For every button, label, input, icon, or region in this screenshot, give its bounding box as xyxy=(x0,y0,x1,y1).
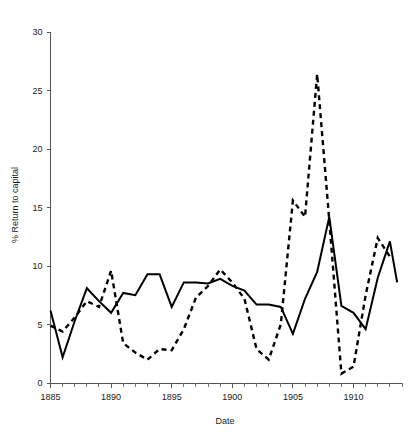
y-tick-label: 10 xyxy=(32,261,42,271)
y-tick-label: 30 xyxy=(32,27,42,37)
x-axis-title: Date xyxy=(215,416,234,426)
y-axis-title: % Return to capital xyxy=(10,167,20,243)
x-tick-label: 1895 xyxy=(162,392,182,402)
chart-background xyxy=(0,0,413,436)
y-tick-label: 0 xyxy=(37,378,42,388)
y-tick-label: 25 xyxy=(32,86,42,96)
x-tick-label: 1900 xyxy=(222,392,242,402)
y-tick-label: 20 xyxy=(32,144,42,154)
y-tick-label: 15 xyxy=(32,203,42,213)
x-tick-label: 1905 xyxy=(283,392,303,402)
y-tick-label: 5 xyxy=(37,320,42,330)
x-tick-label: 1890 xyxy=(101,392,121,402)
x-tick-label: 1885 xyxy=(40,392,60,402)
x-tick-label: 1910 xyxy=(344,392,364,402)
return-to-capital-line-chart: 051015202530 188518901895190019051910 % … xyxy=(0,0,413,436)
chart-container: 051015202530 188518901895190019051910 % … xyxy=(0,0,413,436)
